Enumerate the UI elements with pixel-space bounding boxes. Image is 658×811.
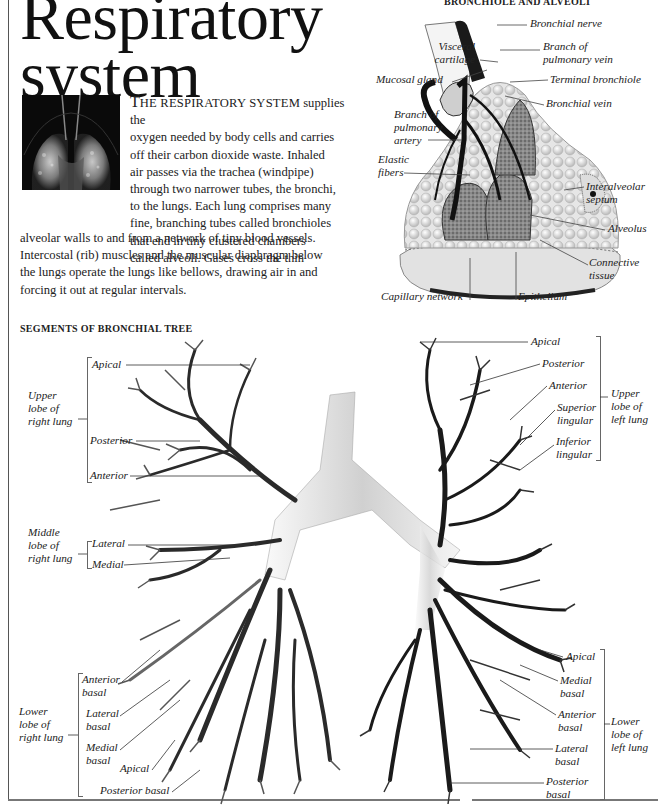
bronchial-tree-leader-lines (0, 0, 658, 811)
